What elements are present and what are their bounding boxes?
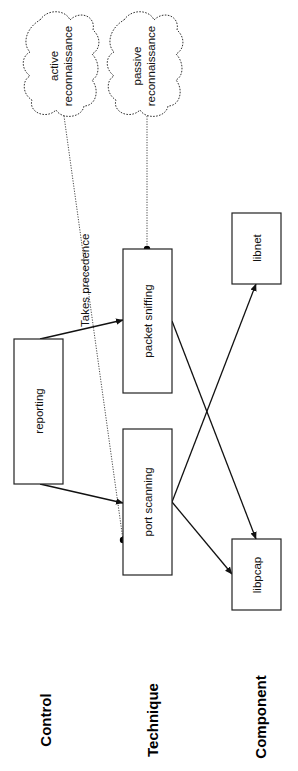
row-label-control: Control (37, 693, 54, 746)
passive-reconnaissance-cloud: passive reconnaissance (107, 12, 183, 117)
libpcap-label: libpcap (251, 557, 263, 593)
active-recon-to-port-scanning-edge (64, 116, 123, 540)
port-scanning-label: port scanning (142, 467, 154, 536)
libnet-label: libnet (251, 233, 263, 261)
passive-reconnaissance-line1: passive (131, 47, 143, 86)
takes-precedence-label: Takes precedence (79, 234, 91, 327)
passive-reconnaissance-line2: reconnaissance (145, 26, 157, 107)
packet-sniffing-node: packet sniffing (123, 249, 172, 393)
packet-sniffing-to-libpcap-edge (172, 321, 256, 539)
libpcap-node: libpcap (232, 539, 281, 610)
diagram-canvas: active reconnaissance passive reconnaiss… (0, 0, 298, 771)
libnet-node: libnet (232, 213, 281, 284)
port-scanning-node: port scanning (123, 429, 172, 575)
port-scanning-to-libnet-edge (172, 284, 256, 502)
reporting-label: reporting (33, 388, 45, 433)
active-reconnaissance-cloud: active reconnaissance (23, 12, 99, 117)
row-label-component: Component (252, 675, 269, 758)
reporting-node: reporting (14, 339, 63, 484)
packet-sniffing-label: packet sniffing (142, 284, 154, 357)
row-label-technique: Technique (144, 683, 161, 757)
active-reconnaissance-line1: active (48, 51, 60, 81)
active-reconnaissance-line2: reconnaissance (62, 26, 74, 107)
port-scanning-to-libpcap-edge (172, 502, 232, 574)
reporting-to-port-scanning-edge (40, 484, 123, 503)
